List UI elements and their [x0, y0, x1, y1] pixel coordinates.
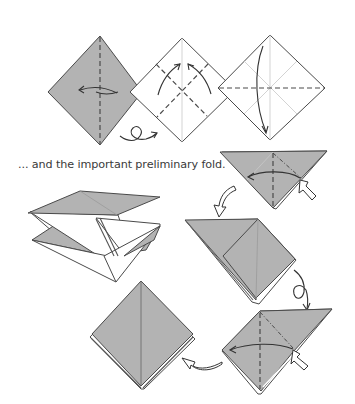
step-1-gray-square [48, 36, 142, 145]
push-arrow-icon [299, 180, 316, 200]
step-2-white-square [130, 38, 235, 142]
origami-diagram [0, 0, 355, 404]
push-arrow-icon-2 [291, 350, 308, 370]
turn-over-icon [120, 127, 157, 141]
next-step-arrow-icon-2 [182, 358, 222, 370]
step-5-collapsing-model [28, 191, 160, 282]
step-4-triangle [220, 151, 327, 209]
step-8-preliminary-fold [90, 281, 195, 389]
next-step-arrow-icon [214, 186, 236, 217]
step-6-half-squashed [185, 219, 296, 304]
step-3-white-square [218, 35, 325, 140]
step-7-kite [222, 309, 332, 394]
turn-over-icon-2 [294, 270, 310, 310]
caption-text: ... and the important preliminary fold. [18, 158, 226, 171]
